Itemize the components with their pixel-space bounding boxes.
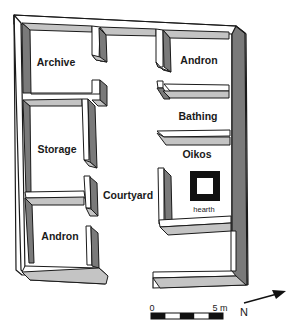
bottom-right-wall	[153, 231, 246, 288]
courtyard-wall-stub: Courtyard	[84, 176, 153, 216]
room-label-andron-bottom: Andron	[41, 230, 78, 242]
room-label-oikos: Oikos	[182, 148, 211, 160]
room-label-courtyard: Courtyard	[103, 189, 153, 201]
floor-plan: Archive Storage Courtyard Andron Andron	[0, 0, 304, 336]
room-archive: Archive	[31, 26, 107, 106]
room-label-bathing: Bathing	[178, 110, 217, 122]
north-arrow-icon: N	[240, 290, 286, 318]
hearth-label: hearth	[193, 205, 214, 214]
room-label-archive: Archive	[37, 56, 76, 68]
room-bathing: Bathing	[157, 81, 230, 145]
scale-bar: 0 5 m	[149, 303, 227, 319]
room-label-andron-top: Andron	[180, 54, 217, 66]
room-label-storage: Storage	[37, 143, 76, 155]
scale-end-label: 5 m	[212, 303, 227, 313]
hearth-icon	[190, 171, 220, 201]
scale-start-label: 0	[149, 303, 154, 313]
room-oikos: Oikos hearth	[158, 148, 231, 235]
north-label: N	[240, 306, 248, 318]
